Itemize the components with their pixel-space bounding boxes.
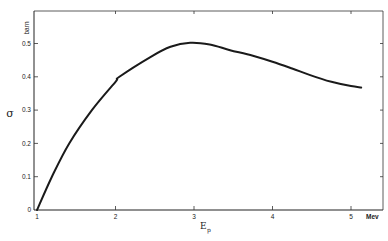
x-unit-label: Mev bbox=[366, 213, 379, 220]
cross-section-chart: 00.10.20.30.40.5 12345 barn σ Mev E p bbox=[0, 0, 388, 241]
x-axis-subscript: p bbox=[207, 226, 211, 234]
x-tick-label: 1 bbox=[35, 213, 39, 220]
data-curve bbox=[37, 43, 361, 210]
y-axis-label: σ bbox=[6, 107, 14, 120]
y-tick-label: 0.2 bbox=[22, 140, 31, 147]
x-tick-label: 2 bbox=[114, 213, 118, 220]
y-tick-label: 0.1 bbox=[22, 173, 31, 180]
y-tick-label: 0 bbox=[27, 206, 31, 213]
y-tick-label: 0.5 bbox=[22, 40, 31, 47]
x-axis-label: E p bbox=[200, 221, 211, 234]
y-unit-label: barn bbox=[23, 21, 30, 34]
plot-frame bbox=[34, 11, 383, 210]
y-tick-label: 0.4 bbox=[22, 73, 31, 80]
x-axis-symbol: E bbox=[200, 221, 207, 231]
x-tick-label: 5 bbox=[349, 213, 353, 220]
y-tick-label: 0.3 bbox=[22, 106, 31, 113]
x-tick-label: 4 bbox=[271, 213, 275, 220]
x-tick-label: 3 bbox=[192, 213, 196, 220]
y-ticks: 00.10.20.30.40.5 bbox=[22, 40, 383, 214]
